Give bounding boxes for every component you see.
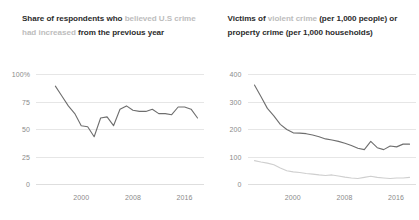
panel-title-right: Victims of violent crime (per 1,000 peop… <box>228 12 418 40</box>
panel-title-left-prefix: Share of respondents who <box>22 14 125 23</box>
y-tick-label: 100 <box>230 153 242 160</box>
panel-title-right-highlight: violent crime <box>268 14 317 23</box>
y-tick-label: 25 <box>22 153 30 160</box>
y-tick-label: 200 <box>230 126 242 133</box>
panel-title-left-suffix: from the previous year <box>76 28 164 37</box>
x-tick-label: 2000 <box>285 194 301 201</box>
y-tick-label: 0 <box>26 181 30 188</box>
x-tick-label: 2016 <box>388 194 404 201</box>
x-tick-label: 2008 <box>336 194 352 201</box>
panel-title-right-prefix: Victims of <box>228 14 268 23</box>
series-layer-right <box>248 74 416 184</box>
gridline <box>36 184 204 185</box>
panel-victimization-rates: Victims of violent crime (per 1,000 peop… <box>210 0 419 220</box>
x-axis-labels-left: 200020082016 <box>36 194 204 208</box>
panel-public-perception: Share of respondents who believed U.S cr… <box>0 0 210 220</box>
series-line <box>254 161 409 179</box>
y-axis-labels-right: 0100200300400 <box>210 74 246 184</box>
gridline <box>248 184 416 185</box>
crime-perception-figure: Share of respondents who believed U.S cr… <box>0 0 419 220</box>
y-tick-label: 50 <box>22 126 30 133</box>
y-tick-label: 100% <box>12 71 30 78</box>
series-line <box>55 86 197 137</box>
y-tick-label: 400 <box>230 71 242 78</box>
x-tick-label: 2008 <box>125 194 141 201</box>
series-layer-left <box>36 74 204 184</box>
plot-area-right <box>248 74 416 184</box>
y-tick-label: 0 <box>238 181 242 188</box>
y-tick-label: 300 <box>230 98 242 105</box>
y-axis-labels-left: 0255075100% <box>0 74 34 184</box>
series-line <box>254 85 409 150</box>
y-tick-label: 75 <box>22 98 30 105</box>
plot-area-left <box>36 74 204 184</box>
x-tick-label: 2000 <box>73 194 89 201</box>
panel-title-left: Share of respondents who believed U.S cr… <box>22 12 204 40</box>
x-axis-labels-right: 200020082016 <box>248 194 416 208</box>
x-tick-label: 2016 <box>177 194 193 201</box>
